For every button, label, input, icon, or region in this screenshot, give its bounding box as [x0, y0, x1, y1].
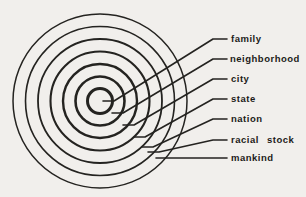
leader-line-state — [134, 99, 227, 137]
label-family: family — [231, 34, 261, 44]
circle-7 — [13, 14, 187, 188]
label-state: state — [231, 94, 256, 104]
concentric-circles-figure: family neighborhood city state nation ra… — [0, 0, 306, 197]
circles-and-leader-lines — [0, 0, 306, 197]
label-city: city — [231, 74, 249, 84]
circle-3 — [63, 64, 137, 138]
label-neighborhood: neighborhood — [230, 54, 300, 64]
circle-4 — [51, 52, 150, 151]
label-nation: nation — [231, 114, 263, 124]
label-mankind: mankind — [231, 153, 274, 163]
circle-2 — [76, 77, 125, 126]
label-racial-stock: racial stock — [231, 135, 294, 145]
circle-6 — [26, 27, 175, 176]
